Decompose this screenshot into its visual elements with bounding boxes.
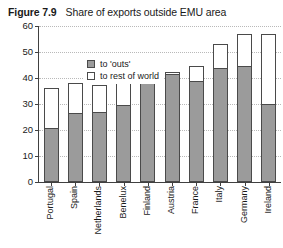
xlabel-slot-germany: Germany — [232, 186, 256, 244]
bar-austria[interactable] — [165, 72, 180, 183]
plot-area: 60 50 40 30 20 10 0 — [38, 26, 281, 183]
xtick-label-ireland: Ireland — [264, 186, 273, 214]
xtick-label-finland: Finland — [143, 186, 152, 216]
legend-label-rest-of-world: to rest of world — [100, 72, 159, 81]
ytick-label-20: 20 — [22, 125, 33, 135]
xlabel-slot-ireland: Ireland — [256, 186, 280, 244]
bar-ireland[interactable] — [261, 34, 276, 182]
xtick-label-france: France — [191, 186, 200, 214]
chart-legend: to 'outs' to rest of world — [84, 56, 163, 84]
bar-segment-rest-portugal — [45, 89, 58, 127]
xtick-label-italy: Italy — [215, 186, 224, 203]
bar-slot-netherlands — [87, 26, 111, 182]
bar-segment-outs-spain — [69, 113, 82, 181]
bar-germany[interactable] — [237, 34, 252, 182]
xtick-label-netherlands: Netherlands — [94, 186, 103, 235]
legend-item-outs[interactable]: to 'outs' — [87, 58, 159, 70]
bar-slot-ireland — [257, 26, 281, 182]
bar-segment-outs-finland — [141, 79, 154, 181]
bar-france[interactable] — [189, 66, 204, 182]
legend-item-rest-of-world[interactable]: to rest of world — [87, 70, 159, 82]
bar-slot-spain — [63, 26, 87, 182]
bar-segment-outs-ireland — [262, 104, 275, 181]
bar-segment-rest-spain — [69, 84, 82, 113]
bar-segment-outs-austria — [166, 74, 179, 181]
bar-segment-outs-france — [190, 81, 203, 181]
xlabel-slot-portugal: Portugal — [38, 186, 62, 244]
bar-segment-outs-portugal — [45, 128, 58, 181]
xtick-label-austria: Austria — [167, 186, 176, 214]
xlabel-slot-austria: Austria — [159, 186, 183, 244]
ytick-label-40: 40 — [22, 73, 33, 83]
bar-segment-rest-netherlands — [93, 86, 106, 113]
xtick-label-germany: Germany — [240, 186, 249, 223]
ytick-label-50: 50 — [22, 47, 33, 57]
white-empty-swatch-icon — [87, 72, 95, 80]
gray-filled-swatch-icon — [87, 60, 95, 68]
page-title: Share of exports outside EMU area — [66, 6, 227, 18]
xlabel-slot-france: France — [183, 186, 207, 244]
bar-slot-germany — [233, 26, 257, 182]
bar-segment-outs-netherlands — [93, 112, 106, 181]
bar-segment-rest-germany — [238, 35, 251, 66]
bar-group — [39, 26, 281, 182]
bar-segment-outs-benelux — [117, 105, 130, 182]
bar-segment-rest-italy — [214, 45, 227, 68]
bar-spain[interactable] — [68, 83, 83, 182]
bar-finland[interactable] — [140, 74, 155, 182]
bar-slot-austria — [160, 26, 184, 182]
bar-slot-benelux — [112, 26, 136, 182]
bar-segment-outs-italy — [214, 68, 227, 181]
figure-container: Figure 7.9 Share of exports outside EMU … — [0, 0, 283, 248]
xtick-label-benelux: Benelux — [119, 186, 128, 219]
xlabel-slot-spain: Spain — [62, 186, 86, 244]
ytick-label-10: 10 — [22, 151, 33, 161]
bar-benelux[interactable] — [116, 78, 131, 182]
figure-number: Figure 7.9 — [8, 6, 57, 18]
bar-segment-outs-germany — [238, 66, 251, 181]
bar-netherlands[interactable] — [92, 85, 107, 183]
xlabel-slot-benelux: Benelux — [111, 186, 135, 244]
xlabel-slot-netherlands: Netherlands — [86, 186, 110, 244]
bar-slot-france — [184, 26, 208, 182]
xtick-label-spain: Spain — [70, 186, 79, 209]
bar-italy[interactable] — [213, 44, 228, 182]
bar-slot-finland — [136, 26, 160, 182]
bar-segment-rest-france — [190, 67, 203, 81]
bar-portugal[interactable] — [44, 88, 59, 182]
bar-slot-italy — [208, 26, 232, 182]
x-axis-labels: Portugal Spain Netherlands Benelux Finla… — [38, 186, 280, 244]
ytick-label-60: 60 — [22, 21, 33, 31]
xlabel-slot-finland: Finland — [135, 186, 159, 244]
legend-label-outs: to 'outs' — [100, 60, 130, 69]
xtick-label-portugal: Portugal — [46, 186, 55, 220]
figure-caption: Figure 7.9 Share of exports outside EMU … — [8, 4, 280, 20]
bar-slot-portugal — [39, 26, 63, 182]
ytick-label-0: 0 — [28, 177, 33, 187]
bar-segment-rest-ireland — [262, 35, 275, 104]
ytick-0 — [35, 182, 39, 183]
ytick-label-30: 30 — [22, 99, 33, 109]
xlabel-slot-italy: Italy — [207, 186, 231, 244]
